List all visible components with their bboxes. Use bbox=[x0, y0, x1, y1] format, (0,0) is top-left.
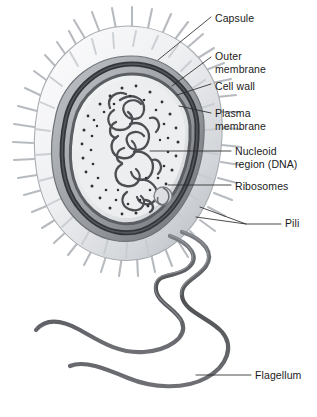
label-plasma-membrane: Plasma membrane bbox=[215, 107, 266, 132]
bacterial-cell-diagram: Capsule Outer membrane Cell wall Plasma … bbox=[0, 0, 317, 417]
label-outer-membrane: Outer membrane bbox=[215, 50, 266, 75]
label-flagellum: Flagellum bbox=[255, 369, 301, 382]
label-pili: Pili bbox=[285, 217, 299, 230]
cytoplasmic-inclusion bbox=[154, 187, 172, 205]
label-ribosomes: Ribosomes bbox=[235, 180, 288, 193]
leader-pili-fork bbox=[196, 207, 281, 224]
label-nucleoid-region: Nucleoid region (DNA) bbox=[235, 145, 297, 170]
label-capsule: Capsule bbox=[215, 12, 254, 25]
diagram-artwork bbox=[0, 0, 317, 417]
label-cell-wall: Cell wall bbox=[215, 80, 255, 93]
